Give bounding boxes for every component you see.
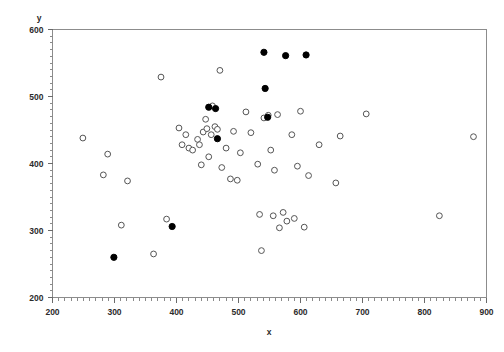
y-tick-label: 400	[29, 159, 43, 169]
data-point-open	[228, 176, 234, 182]
data-point-open	[118, 222, 124, 228]
data-point-open	[234, 177, 240, 183]
data-point-open	[217, 67, 223, 73]
data-point-filled	[169, 223, 175, 229]
x-tick-label: 500	[231, 307, 245, 317]
data-point-open	[151, 251, 157, 257]
x-tick-label: 600	[293, 307, 307, 317]
data-point-filled	[212, 105, 218, 111]
data-point-open	[100, 172, 106, 178]
y-axis-tick-labels: 200300400500600	[29, 25, 43, 303]
data-point-open	[219, 165, 225, 171]
x-tick-label: 400	[169, 307, 183, 317]
data-point-open	[363, 111, 369, 117]
data-point-open	[80, 135, 86, 141]
data-point-open	[284, 218, 290, 224]
data-point-open	[183, 132, 189, 138]
plot-frame-rect	[53, 30, 487, 298]
data-point-open	[105, 151, 111, 157]
x-tick-label: 700	[355, 307, 369, 317]
x-tick-label: 300	[107, 307, 121, 317]
data-point-open	[306, 173, 312, 179]
x-axis-tick-labels: 200300400500600700800900	[45, 307, 493, 317]
data-point-open	[337, 133, 343, 139]
data-point-open	[272, 167, 278, 173]
x-tick-label: 200	[45, 307, 59, 317]
data-point-open	[243, 109, 249, 115]
scatter-plot-canvas: 200300400500600700800900 200300400500600…	[0, 0, 504, 352]
data-point-open	[125, 178, 131, 184]
data-point-open	[298, 108, 304, 114]
data-point-open	[190, 147, 196, 153]
data-point-open	[164, 216, 170, 222]
data-point-open	[231, 128, 237, 134]
data-point-open	[291, 216, 297, 222]
x-axis-ticks	[53, 298, 487, 303]
data-point-filled	[265, 114, 271, 120]
data-point-open	[198, 162, 204, 168]
data-point-open	[316, 142, 322, 148]
data-point-open	[255, 161, 261, 167]
data-point-filled	[262, 85, 268, 91]
data-point-open	[257, 212, 263, 218]
x-tick-label: 900	[479, 307, 493, 317]
y-tick-label: 600	[29, 25, 43, 35]
data-point-open	[179, 142, 185, 148]
data-point-open	[471, 134, 477, 140]
plot-frame	[53, 30, 487, 298]
data-point-open	[295, 163, 301, 169]
data-point-open	[223, 145, 229, 151]
y-tick-label: 500	[29, 92, 43, 102]
data-point-open	[277, 225, 283, 231]
data-point-filled	[214, 136, 220, 142]
data-point-filled	[283, 53, 289, 59]
data-point-filled	[303, 52, 309, 58]
y-tick-label: 300	[29, 226, 43, 236]
y-axis-title: y	[37, 13, 42, 23]
data-point-open	[204, 126, 210, 132]
data-point-open	[270, 213, 276, 219]
data-point-open	[206, 154, 212, 160]
data-point-open	[280, 210, 286, 216]
data-point-open	[158, 74, 164, 80]
data-point-open	[275, 112, 281, 118]
data-point-open	[237, 150, 243, 156]
data-points-open	[80, 67, 476, 256]
data-point-open	[268, 147, 274, 153]
x-axis-title: x	[267, 327, 272, 337]
data-point-filled	[111, 254, 117, 260]
data-point-open	[208, 132, 214, 138]
data-point-filled	[261, 49, 267, 55]
data-point-open	[215, 126, 221, 132]
data-point-open	[333, 180, 339, 186]
data-point-open	[248, 130, 254, 136]
data-point-open	[301, 224, 307, 230]
x-tick-label: 800	[417, 307, 431, 317]
data-point-filled	[206, 104, 212, 110]
data-point-open	[289, 132, 295, 138]
y-axis-ticks	[48, 30, 53, 298]
y-tick-label: 200	[29, 293, 43, 303]
data-point-open	[176, 125, 182, 131]
data-point-open	[203, 116, 209, 122]
data-point-open	[259, 248, 265, 254]
data-point-open	[197, 142, 203, 148]
data-point-open	[436, 213, 442, 219]
scatter-plot-figure: 200300400500600700800900 200300400500600…	[0, 0, 504, 352]
